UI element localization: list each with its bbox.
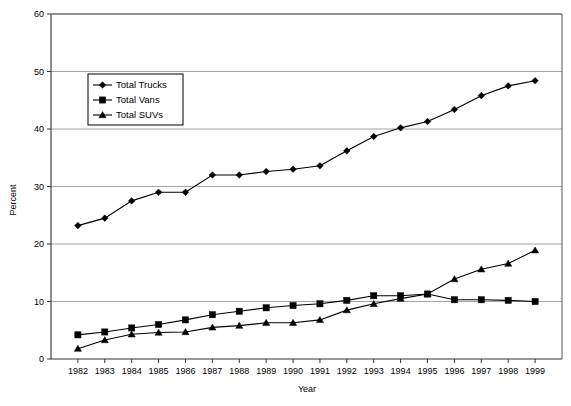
x-tick-label: 1996 — [444, 366, 464, 376]
data-point — [317, 301, 323, 307]
data-point — [209, 312, 215, 318]
data-point — [290, 302, 296, 308]
data-point — [129, 325, 135, 331]
x-tick-label: 1982 — [68, 366, 88, 376]
y-tick-label: 60 — [34, 9, 44, 19]
legend-label: Total Trucks — [116, 79, 167, 90]
data-point — [344, 297, 350, 303]
y-tick-label: 30 — [34, 182, 44, 192]
y-tick-label: 0 — [39, 354, 44, 364]
square-marker — [99, 97, 105, 103]
data-point — [102, 329, 108, 335]
x-tick-label: 1990 — [283, 366, 303, 376]
x-tick-label: 1999 — [525, 366, 545, 376]
y-tick-label: 10 — [34, 297, 44, 307]
x-tick-label: 1992 — [337, 366, 357, 376]
data-point — [182, 317, 188, 323]
data-point — [505, 297, 511, 303]
y-tick-label: 20 — [34, 239, 44, 249]
chart-legend: Total TrucksTotal VansTotal SUVs — [88, 74, 183, 125]
legend-label: Total SUVs — [116, 109, 163, 120]
x-tick-label: 1994 — [391, 366, 411, 376]
x-tick-label: 1991 — [310, 366, 330, 376]
data-point — [532, 298, 538, 304]
data-point — [451, 297, 457, 303]
x-tick-label: 1993 — [364, 366, 384, 376]
x-tick-label: 1998 — [498, 366, 518, 376]
y-tick-label: 50 — [34, 67, 44, 77]
x-tick-label: 1985 — [149, 366, 169, 376]
data-point — [263, 305, 269, 311]
x-tick-label: 1983 — [95, 366, 115, 376]
x-tick-label: 1987 — [202, 366, 222, 376]
x-tick-label: 1989 — [256, 366, 276, 376]
chart-canvas: 0102030405060 19821983198419851986198719… — [0, 0, 571, 406]
line-chart: 0102030405060 19821983198419851986198719… — [0, 0, 571, 406]
x-tick-label: 1988 — [229, 366, 249, 376]
y-axis-title: Percent — [8, 184, 18, 216]
x-axis-title: Year — [298, 384, 316, 394]
data-point — [155, 321, 161, 327]
legend-label: Total Vans — [116, 94, 160, 105]
chart-background — [0, 0, 571, 406]
data-point — [371, 293, 377, 299]
data-point — [236, 308, 242, 314]
data-point — [478, 297, 484, 303]
data-point — [75, 332, 81, 338]
x-tick-label: 1986 — [175, 366, 195, 376]
x-tick-label: 1984 — [122, 366, 142, 376]
x-tick-label: 1997 — [471, 366, 491, 376]
y-tick-label: 40 — [34, 124, 44, 134]
x-tick-label: 1995 — [418, 366, 438, 376]
